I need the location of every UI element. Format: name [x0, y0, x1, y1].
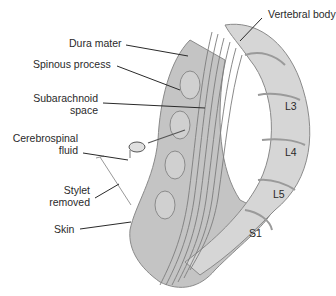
label-cerebrospinal-fluid: Cerebrospinal fluid: [10, 132, 78, 156]
label-subarachnoid-line1: Subarachnoid: [32, 92, 98, 104]
label-stylet-line2: removed: [40, 196, 90, 208]
label-csf-line1: Cerebrospinal: [10, 132, 78, 144]
label-l4: L4: [285, 146, 297, 158]
label-csf-line2: fluid: [10, 144, 78, 156]
stylet: [96, 156, 131, 205]
label-subarachnoid-space: Subarachnoid space: [32, 92, 98, 116]
label-l5: L5: [273, 188, 285, 200]
label-subarachnoid-line2: space: [32, 104, 98, 116]
label-s1: S1: [249, 227, 262, 239]
label-dura-mater: Dura mater: [69, 37, 122, 49]
label-spinous-process: Spinous process: [33, 58, 111, 70]
label-skin: Skin: [54, 223, 74, 235]
label-l3: L3: [285, 100, 297, 112]
label-stylet-line1: Stylet: [40, 184, 90, 196]
label-vertebral-body: Vertebral body: [268, 8, 336, 20]
label-stylet-removed: Stylet removed: [40, 184, 90, 208]
